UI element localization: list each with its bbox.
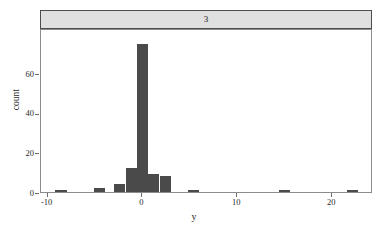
histogram-bar bbox=[55, 190, 66, 192]
histogram-bar bbox=[114, 184, 125, 192]
y-axis-tick-mark bbox=[35, 114, 39, 115]
histogram-bar bbox=[126, 168, 137, 192]
facet-strip-header: 3 bbox=[40, 10, 372, 29]
x-axis-tick-mark bbox=[236, 193, 237, 197]
histogram-bar bbox=[160, 176, 171, 192]
histogram-bar bbox=[347, 190, 358, 192]
y-axis-tick-mark bbox=[35, 193, 39, 194]
y-axis-tick-mark bbox=[35, 74, 39, 75]
y-axis-tick-label: 20 bbox=[0, 149, 34, 158]
x-axis-tick-label: 10 bbox=[216, 198, 256, 207]
y-axis-tick-label: 0 bbox=[0, 189, 34, 198]
plot-panel bbox=[40, 29, 372, 193]
x-axis-tick-label: 0 bbox=[121, 198, 161, 207]
histogram-figure: 3 0204060 -1001020 count y bbox=[0, 0, 388, 247]
x-axis-label: y bbox=[0, 212, 388, 222]
y-axis-tick-mark bbox=[35, 153, 39, 154]
histogram-bar bbox=[279, 190, 290, 192]
x-axis-tick-mark bbox=[141, 193, 142, 197]
x-axis-tick-label: 20 bbox=[311, 198, 351, 207]
histogram-bar bbox=[137, 44, 148, 192]
histogram-bar bbox=[94, 188, 105, 192]
histogram-bar bbox=[148, 174, 159, 192]
x-axis-tick-label: -10 bbox=[27, 198, 67, 207]
y-axis-label: count bbox=[12, 70, 22, 130]
x-axis-tick-mark bbox=[331, 193, 332, 197]
facet-strip-label: 3 bbox=[204, 15, 209, 24]
histogram-bar bbox=[188, 190, 199, 192]
plot-area bbox=[41, 30, 371, 192]
x-axis-tick-mark bbox=[47, 193, 48, 197]
